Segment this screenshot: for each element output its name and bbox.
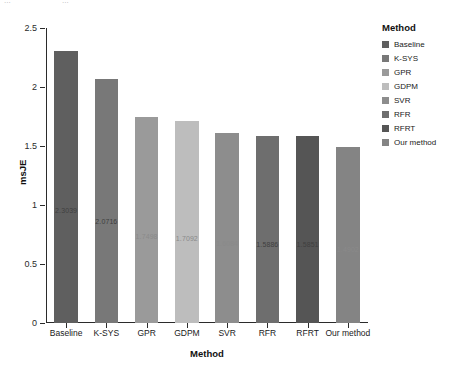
cutoff-caption: ... ... [0, 0, 466, 9]
legend-item: SVR [382, 94, 466, 107]
legend-item: Our method [382, 136, 466, 149]
bar-value-label: 2.0716 [95, 218, 117, 225]
bar: 1.7498 [135, 117, 158, 323]
legend-item: GDPM [382, 80, 466, 93]
x-tick-label: RFR [259, 328, 276, 338]
legend-title: Method [382, 22, 466, 33]
y-tick-mark [40, 87, 45, 88]
legend-swatch-icon [382, 111, 389, 118]
legend-items: BaselineK-SYSGPRGDPMSVRRFRRFRTOur method [382, 38, 466, 149]
x-axis-title: Method [46, 348, 368, 359]
legend-item: RFR [382, 108, 466, 121]
cutoff-caption-right: ... [62, 0, 69, 5]
legend-swatch-icon [382, 97, 389, 104]
x-tick-label: Our method [325, 328, 370, 338]
legend-item-label: RFRT [394, 124, 415, 133]
x-tick-label: GPR [137, 328, 155, 338]
y-tick-label: 2.5 [24, 23, 37, 33]
bar: 1.6084 [215, 133, 238, 323]
legend-item-label: Baseline [394, 40, 425, 49]
bar: 1.5886 [256, 136, 279, 323]
bar-value-label: 1.7498 [136, 233, 158, 240]
y-tick-mark [40, 146, 45, 147]
bar-value-label: 1.6084 [216, 240, 238, 247]
x-tick-label: RFRT [296, 328, 319, 338]
y-tick-mark [40, 205, 45, 206]
legend-swatch-icon [382, 139, 389, 146]
bar-value-label: 2.3039 [55, 207, 77, 214]
bar: 2.3039 [54, 51, 77, 323]
x-tick-label: Baseline [50, 328, 83, 338]
x-axis-tick-labels: BaselineK-SYSGPRGDPMSVRRFRRFRTOur method [46, 328, 368, 342]
bar-series: 2.30392.07161.74981.70921.60841.58861.58… [46, 28, 368, 323]
x-tick-label: GDPM [174, 328, 200, 338]
legend-item-label: K-SYS [394, 54, 418, 63]
bar-value-label: 1.4902 [337, 246, 359, 253]
y-tick-label: 1 [32, 200, 37, 210]
y-tick-mark [40, 264, 45, 265]
legend-item: GPR [382, 66, 466, 79]
bar: 1.4902 [336, 147, 359, 323]
legend-item: RFRT [382, 122, 466, 135]
bar-value-label: 1.5851 [297, 241, 319, 248]
legend-item-label: GPR [394, 68, 411, 77]
y-tick-label: 0.5 [24, 259, 37, 269]
legend-item: K-SYS [382, 52, 466, 65]
bar: 1.7092 [175, 121, 198, 323]
legend-swatch-icon [382, 41, 389, 48]
plot-area: 00.511.522.5 2.30392.07161.74981.70921.6… [46, 28, 368, 323]
legend-swatch-icon [382, 125, 389, 132]
bar: 1.5851 [296, 136, 319, 323]
legend: Method BaselineK-SYSGPRGDPMSVRRFRRFRTOur… [382, 22, 466, 150]
legend-item-label: RFR [394, 110, 410, 119]
legend-swatch-icon [382, 55, 389, 62]
x-tick-label: SVR [218, 328, 235, 338]
y-tick-label: 1.5 [24, 141, 37, 151]
bar-chart-figure: ... ... 00.511.522.5 2.30392.07161.74981… [0, 0, 466, 372]
legend-item-label: GDPM [394, 82, 418, 91]
x-tick-label: K-SYS [94, 328, 120, 338]
legend-item: Baseline [382, 38, 466, 51]
legend-swatch-icon [382, 83, 389, 90]
cutoff-caption-left: ... [4, 0, 11, 5]
y-tick-label: 0 [32, 318, 37, 328]
y-tick-label: 2 [32, 82, 37, 92]
bar-value-label: 1.7092 [176, 235, 198, 242]
legend-item-label: SVR [394, 96, 410, 105]
y-axis-title: msJE [17, 160, 28, 185]
bar: 2.0716 [95, 79, 118, 323]
bar-value-label: 1.5886 [256, 241, 278, 248]
y-tick-mark [40, 323, 45, 324]
legend-swatch-icon [382, 69, 389, 76]
y-tick-mark [40, 28, 45, 29]
legend-item-label: Our method [394, 138, 436, 147]
